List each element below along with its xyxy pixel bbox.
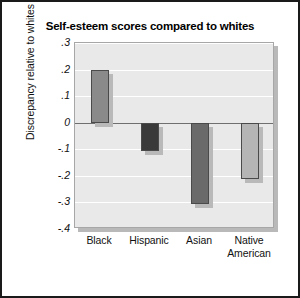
y-tick-label: -.1 bbox=[44, 142, 70, 154]
x-label-line: Asian bbox=[174, 234, 224, 247]
x-label-native-american: NativeAmerican bbox=[224, 234, 274, 259]
y-tick-label: -.3 bbox=[44, 195, 70, 207]
y-tick-label: -.2 bbox=[44, 169, 70, 181]
gridline bbox=[75, 202, 273, 203]
y-axis-tick-labels: .3.2.10-.1-.2-.3-.4 bbox=[42, 42, 70, 228]
chart-figure: Self-esteem scores compared to whites Di… bbox=[0, 0, 300, 298]
y-tick-label: .3 bbox=[44, 36, 70, 48]
bar-native-american bbox=[241, 123, 259, 179]
bar-asian bbox=[191, 123, 209, 204]
x-label-line: American bbox=[224, 247, 274, 260]
bar-black bbox=[91, 70, 109, 123]
x-label-line: Hispanic bbox=[124, 234, 174, 247]
x-label-black: Black bbox=[74, 234, 124, 247]
chart-title: Self-esteem scores compared to whites bbox=[2, 20, 298, 32]
y-tick-label: .2 bbox=[44, 63, 70, 75]
gridline bbox=[75, 43, 273, 44]
bar-hispanic bbox=[141, 123, 159, 151]
x-label-line: Native bbox=[224, 234, 274, 247]
x-label-asian: Asian bbox=[174, 234, 224, 247]
plot-area bbox=[74, 42, 274, 228]
x-label-line: Black bbox=[74, 234, 124, 247]
y-tick-label: -.4 bbox=[44, 222, 70, 234]
y-tick-label: 0 bbox=[44, 116, 70, 128]
x-axis-category-labels: BlackHispanicAsianNativeAmerican bbox=[74, 234, 274, 278]
y-axis-title: Discrepancy relative to whites bbox=[24, 0, 36, 160]
y-tick-label: .1 bbox=[44, 89, 70, 101]
x-label-hispanic: Hispanic bbox=[124, 234, 174, 247]
